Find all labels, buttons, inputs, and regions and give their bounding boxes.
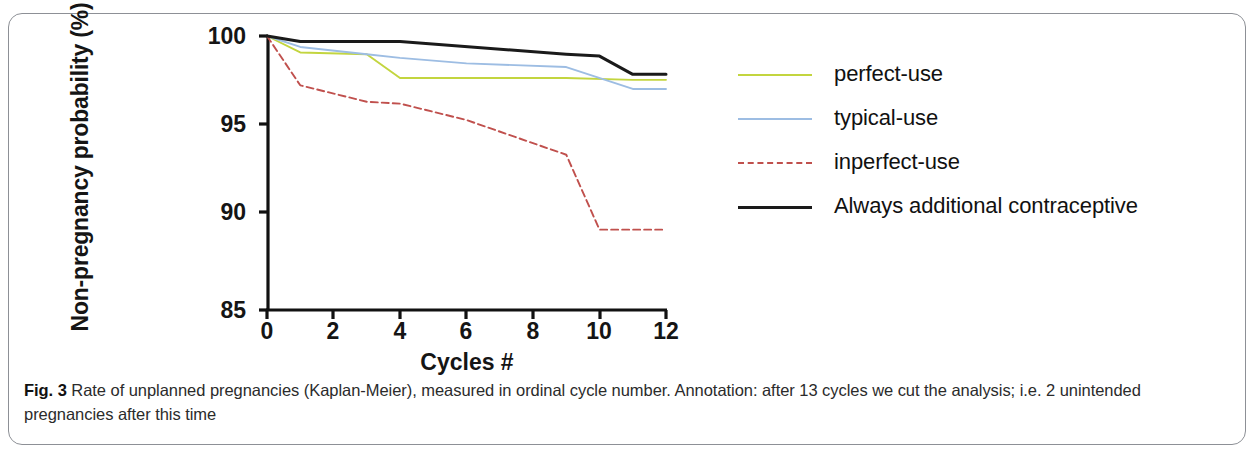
legend-item-perfect-use: perfect-use [738, 52, 1198, 96]
legend-swatch-always-additional-contraceptive [738, 199, 812, 213]
legend-swatch-inperfect-use [738, 155, 812, 169]
figure-caption: Fig. 3 Rate of unplanned pregnancies (Ka… [24, 379, 1229, 427]
series-lines [267, 36, 666, 230]
x-axis-title: Cycles # [267, 349, 667, 376]
legend-label-perfect-use: perfect-use [834, 61, 943, 87]
legend-swatch-typical-use [738, 111, 812, 125]
legend-swatch-perfect-use [738, 67, 812, 81]
legend-item-typical-use: typical-use [738, 96, 1198, 140]
chart-svg [0, 0, 720, 340]
legend-label-always-additional-contraceptive: Always additional contraceptive [834, 193, 1138, 219]
legend-item-always-additional-contraceptive: Always additional contraceptive [738, 184, 1198, 228]
series-line-inperfect-use [267, 36, 666, 230]
series-line-typical-use [267, 36, 666, 89]
chart-legend: perfect-use typical-use inperfect-use Al… [738, 52, 1198, 228]
legend-label-inperfect-use: inperfect-use [834, 149, 960, 175]
figure-number: Fig. 3 [24, 381, 67, 399]
series-line-always-additional-contraceptive [267, 36, 666, 74]
legend-label-typical-use: typical-use [834, 105, 938, 131]
figure-caption-text: Rate of unplanned pregnancies (Kaplan-Me… [24, 381, 1141, 423]
legend-item-inperfect-use: inperfect-use [738, 140, 1198, 184]
